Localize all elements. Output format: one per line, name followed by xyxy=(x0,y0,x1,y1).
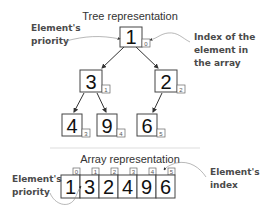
heap-diagram: Tree representation 1 0 3 1 2 2 4 3 9 xyxy=(0,0,263,215)
svg-text:3: 3 xyxy=(85,71,96,93)
svg-text:element in: element in xyxy=(194,45,248,55)
array-title: Array representation xyxy=(80,153,180,165)
svg-text:1: 1 xyxy=(65,176,76,198)
tree-node-5: 6 5 xyxy=(137,114,165,137)
svg-text:index: index xyxy=(210,180,238,190)
tree-title: Tree representation xyxy=(82,10,178,22)
svg-text:1: 1 xyxy=(125,26,136,48)
array-cell-3: 3 4 xyxy=(118,168,137,198)
array-index-annotation: Element's index xyxy=(164,162,260,190)
svg-text:2: 2 xyxy=(160,71,171,93)
tree-node-0: 1 0 xyxy=(120,26,150,48)
tree-priority-annotation: Element's priority xyxy=(31,23,120,46)
array-cells: 0 1 1 3 2 2 3 4 4 9 xyxy=(61,168,175,198)
svg-text:priority: priority xyxy=(12,187,50,197)
svg-text:9: 9 xyxy=(141,176,152,198)
array-cell-1: 1 3 xyxy=(80,168,99,198)
tree-node-2: 2 2 xyxy=(155,70,185,93)
svg-text:2: 2 xyxy=(103,176,114,198)
svg-text:6: 6 xyxy=(141,115,152,137)
svg-text:Element's: Element's xyxy=(210,167,260,177)
svg-text:9: 9 xyxy=(101,115,112,137)
svg-text:Element's: Element's xyxy=(31,23,81,33)
tree-index-annotation: Index of the element in the array xyxy=(150,32,255,68)
svg-text:4: 4 xyxy=(122,176,133,198)
svg-text:the array: the array xyxy=(194,58,241,68)
array-cell-5: 5 6 xyxy=(156,168,175,198)
svg-text:4: 4 xyxy=(66,115,77,137)
tree-node-1: 3 1 xyxy=(80,70,110,93)
svg-text:6: 6 xyxy=(160,176,171,198)
tree-node-4: 9 4 xyxy=(97,114,125,137)
svg-text:Index of the: Index of the xyxy=(194,32,255,42)
svg-text:3: 3 xyxy=(84,176,95,198)
svg-text:priority: priority xyxy=(31,36,69,46)
svg-text:Element's: Element's xyxy=(12,174,62,184)
array-cell-2: 2 2 xyxy=(99,168,118,198)
tree-node-3: 4 3 xyxy=(62,114,90,137)
array-cell-4: 4 9 xyxy=(137,168,156,198)
